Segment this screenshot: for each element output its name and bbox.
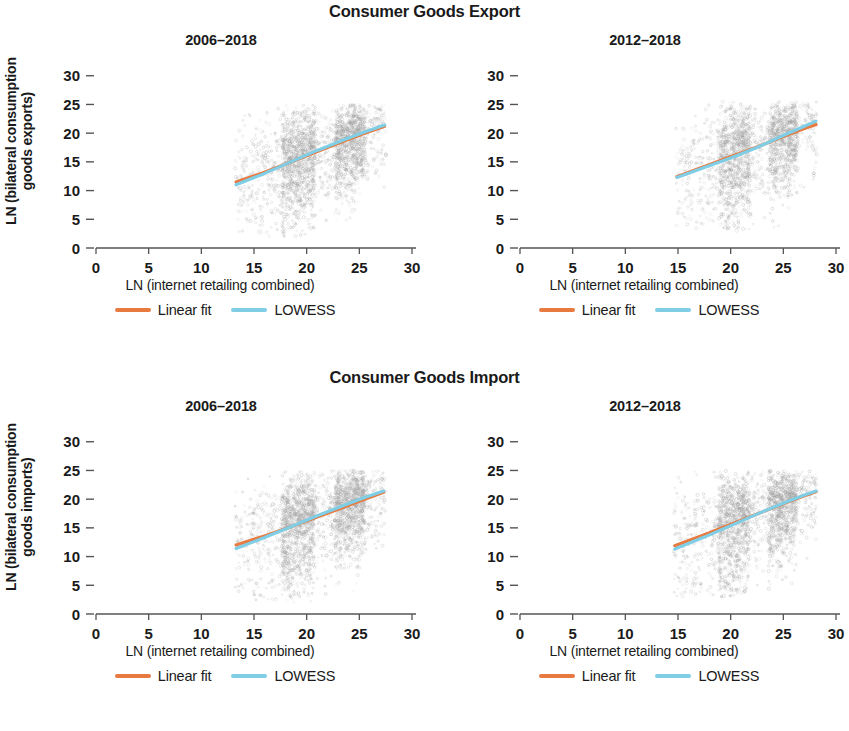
panel-export-2012-2018: 2012–2018 LN (bilateral consumption good… <box>424 30 848 360</box>
svg-text:0: 0 <box>496 240 504 257</box>
svg-text:30: 30 <box>63 67 80 84</box>
svg-text:25: 25 <box>775 625 792 642</box>
legend: Linear fit LOWESS <box>464 668 834 684</box>
svg-text:0: 0 <box>516 259 524 276</box>
legend-label: LOWESS <box>274 668 335 684</box>
panel-title: 2012–2018 <box>520 398 770 414</box>
panel-title: 2012–2018 <box>520 32 770 48</box>
svg-text:0: 0 <box>72 606 80 623</box>
legend: Linear fit LOWESS <box>40 668 410 684</box>
svg-text:30: 30 <box>487 433 504 450</box>
svg-text:5: 5 <box>496 211 504 228</box>
svg-text:15: 15 <box>246 625 263 642</box>
legend-swatch-lowess-icon <box>231 308 267 311</box>
svg-text:20: 20 <box>298 625 315 642</box>
legend-label: LOWESS <box>274 302 335 318</box>
panel-import-2006-2018: 2006–2018 LN (bilateral consumption good… <box>0 396 424 726</box>
svg-text:5: 5 <box>568 259 576 276</box>
svg-text:5: 5 <box>144 625 152 642</box>
svg-text:0: 0 <box>72 240 80 257</box>
svg-text:25: 25 <box>487 462 504 479</box>
legend-swatch-linear-fit-icon <box>539 308 575 311</box>
svg-text:25: 25 <box>63 96 80 113</box>
svg-text:20: 20 <box>487 491 504 508</box>
svg-text:25: 25 <box>63 462 80 479</box>
svg-text:30: 30 <box>404 625 421 642</box>
x-axis-label: LN (internet retailing combined) <box>30 643 410 659</box>
svg-text:30: 30 <box>828 625 845 642</box>
legend-item-linear-fit[interactable]: Linear fit <box>115 302 212 318</box>
svg-text:30: 30 <box>487 67 504 84</box>
legend-swatch-lowess-icon <box>655 308 691 311</box>
svg-text:15: 15 <box>670 259 687 276</box>
svg-text:10: 10 <box>193 625 210 642</box>
plot-area: 051015202530051015202530 <box>0 52 424 294</box>
section-title-import: Consumer Goods Import <box>0 368 849 387</box>
svg-text:10: 10 <box>193 259 210 276</box>
plot-area: 051015202530051015202530 <box>0 418 424 660</box>
legend-swatch-lowess-icon <box>655 674 691 677</box>
svg-text:10: 10 <box>63 182 80 199</box>
legend-swatch-lowess-icon <box>231 674 267 677</box>
legend-item-lowess[interactable]: LOWESS <box>655 302 759 318</box>
legend-label: LOWESS <box>698 668 759 684</box>
svg-text:25: 25 <box>775 259 792 276</box>
svg-text:5: 5 <box>568 625 576 642</box>
section-consumer-goods-import: Consumer Goods Import 2006–2018 LN (bila… <box>0 366 849 731</box>
legend-swatch-linear-fit-icon <box>115 674 151 677</box>
svg-text:15: 15 <box>487 153 504 170</box>
plot-area: 051015202530051015202530 <box>424 418 848 660</box>
svg-text:5: 5 <box>144 259 152 276</box>
x-axis-label: LN (internet retailing combined) <box>454 643 834 659</box>
legend-label: Linear fit <box>158 302 212 318</box>
svg-text:20: 20 <box>298 259 315 276</box>
svg-text:10: 10 <box>63 548 80 565</box>
legend-item-linear-fit[interactable]: Linear fit <box>539 302 636 318</box>
legend: Linear fit LOWESS <box>40 302 410 318</box>
svg-text:10: 10 <box>487 548 504 565</box>
svg-text:5: 5 <box>72 577 80 594</box>
svg-text:15: 15 <box>670 625 687 642</box>
svg-text:0: 0 <box>92 625 100 642</box>
svg-text:20: 20 <box>722 625 739 642</box>
svg-text:15: 15 <box>246 259 263 276</box>
svg-text:0: 0 <box>516 625 524 642</box>
svg-text:0: 0 <box>496 606 504 623</box>
legend-label: Linear fit <box>158 668 212 684</box>
svg-text:15: 15 <box>487 519 504 536</box>
svg-text:25: 25 <box>487 96 504 113</box>
legend-swatch-linear-fit-icon <box>539 674 575 677</box>
legend-swatch-linear-fit-icon <box>115 308 151 311</box>
panel-title: 2006–2018 <box>96 32 346 48</box>
svg-text:30: 30 <box>404 259 421 276</box>
svg-text:5: 5 <box>496 577 504 594</box>
panel-title: 2006–2018 <box>96 398 346 414</box>
panel-export-2006-2018: 2006–2018 LN (bilateral consumption good… <box>0 30 424 360</box>
svg-text:20: 20 <box>63 491 80 508</box>
section-title-export: Consumer Goods Export <box>0 2 849 21</box>
plot-area: 051015202530051015202530 <box>424 52 848 294</box>
svg-text:15: 15 <box>63 519 80 536</box>
svg-text:20: 20 <box>722 259 739 276</box>
legend-label: Linear fit <box>582 668 636 684</box>
svg-text:25: 25 <box>351 625 368 642</box>
svg-text:20: 20 <box>63 125 80 142</box>
svg-text:15: 15 <box>63 153 80 170</box>
svg-text:25: 25 <box>351 259 368 276</box>
legend-item-linear-fit[interactable]: Linear fit <box>539 668 636 684</box>
section-consumer-goods-export: Consumer Goods Export 2006–2018 LN (bila… <box>0 0 849 365</box>
svg-text:0: 0 <box>92 259 100 276</box>
legend-item-lowess[interactable]: LOWESS <box>231 668 335 684</box>
x-axis-label: LN (internet retailing combined) <box>30 277 410 293</box>
legend-item-linear-fit[interactable]: Linear fit <box>115 668 212 684</box>
svg-text:10: 10 <box>617 625 634 642</box>
legend-label: Linear fit <box>582 302 636 318</box>
svg-text:30: 30 <box>63 433 80 450</box>
legend-item-lowess[interactable]: LOWESS <box>655 668 759 684</box>
x-axis-label: LN (internet retailing combined) <box>454 277 834 293</box>
legend-item-lowess[interactable]: LOWESS <box>231 302 335 318</box>
svg-text:30: 30 <box>828 259 845 276</box>
legend-label: LOWESS <box>698 302 759 318</box>
panel-import-2012-2018: 2012–2018 LN (bilateral consumption good… <box>424 396 848 726</box>
svg-text:10: 10 <box>487 182 504 199</box>
